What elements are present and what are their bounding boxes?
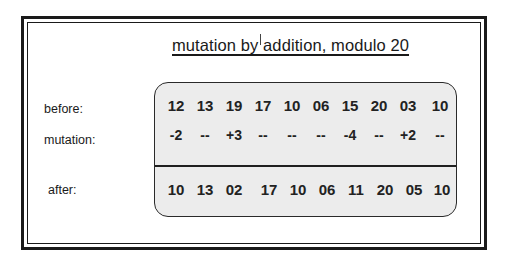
after-value: 06 — [319, 181, 336, 198]
diagram-title: mutation by addition, modulo 20 — [172, 36, 409, 55]
after-value: 05 — [406, 181, 423, 198]
before-value: 06 — [313, 97, 330, 114]
before-value: 17 — [255, 97, 272, 114]
mutation-value: -- — [435, 127, 444, 143]
before-value: 13 — [197, 97, 214, 114]
after-value: 02 — [226, 181, 243, 198]
sequence-box: 12 13 19 17 10 06 15 20 03 10 -2 -- +3 -… — [154, 82, 457, 217]
mutation-value: -- — [200, 127, 209, 143]
mutation-value: -- — [316, 127, 325, 143]
after-value: 10 — [434, 181, 451, 198]
after-value: 10 — [290, 181, 307, 198]
before-value: 03 — [400, 97, 417, 114]
mutation-value: -- — [374, 127, 383, 143]
label-mutation: mutation: — [44, 133, 95, 147]
after-value: 17 — [261, 181, 278, 198]
mutation-value: -2 — [170, 127, 182, 143]
before-value: 10 — [432, 97, 449, 114]
before-value: 15 — [342, 97, 359, 114]
text-cursor — [260, 34, 261, 45]
after-value: 10 — [168, 181, 185, 198]
divider-line — [155, 165, 456, 167]
after-row: 10 13 02 17 10 06 11 20 05 10 — [155, 181, 456, 201]
before-value: 20 — [371, 97, 388, 114]
before-value: 12 — [168, 97, 185, 114]
mutation-value: -- — [287, 127, 296, 143]
before-value: 19 — [226, 97, 243, 114]
mutation-value: -4 — [344, 127, 356, 143]
mutation-row: -2 -- +3 -- -- -- -4 -- +2 -- — [155, 127, 456, 147]
mutation-value: -- — [258, 127, 267, 143]
after-value: 20 — [377, 181, 394, 198]
before-row: 12 13 19 17 10 06 15 20 03 10 — [155, 97, 456, 117]
mutation-value: +2 — [400, 127, 416, 143]
label-before: before: — [44, 102, 83, 116]
mutation-value: +3 — [226, 127, 242, 143]
after-value: 13 — [197, 181, 214, 198]
label-after: after: — [48, 183, 77, 197]
before-value: 10 — [284, 97, 301, 114]
after-value: 11 — [348, 181, 364, 198]
